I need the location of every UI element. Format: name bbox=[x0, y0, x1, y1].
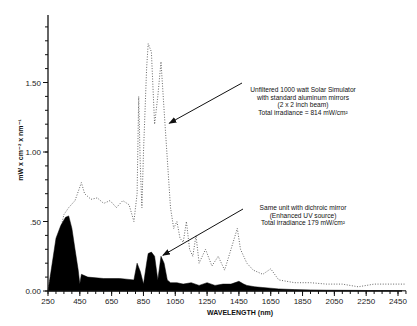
x-tick-label: 2450 bbox=[389, 297, 407, 306]
y-tick-label: 0.00 bbox=[25, 287, 41, 296]
x-tick-label: 650 bbox=[105, 297, 119, 306]
annotation-text: Same unit with dichroic mirror bbox=[260, 204, 348, 211]
y-tick-label: .50 bbox=[30, 218, 42, 227]
annotation-arrow-icon bbox=[169, 83, 242, 123]
annotation-text: Total irradiance = 814 mW/cm² bbox=[258, 109, 348, 116]
x-tick-label: 2250 bbox=[357, 297, 375, 306]
y-tick-label: 1.00 bbox=[25, 148, 41, 157]
y-tick-label: 1.50 bbox=[25, 79, 41, 88]
x-tick-label: 850 bbox=[137, 297, 151, 306]
annotation-text: Total irradiance 179 mW/cm² bbox=[261, 219, 346, 226]
annotation-2: Same unit with dichroic mirror(Enhanced … bbox=[163, 204, 347, 255]
annotation-1: Unfiltered 1000 watt Solar Simulatorwith… bbox=[169, 83, 356, 123]
x-tick-label: 1650 bbox=[262, 297, 280, 306]
x-tick-label: 450 bbox=[73, 297, 87, 306]
annotations: Unfiltered 1000 watt Solar Simulatorwith… bbox=[163, 83, 357, 255]
x-tick-label: 1250 bbox=[198, 297, 216, 306]
annotation-text: Unfiltered 1000 watt Solar Simulator bbox=[250, 86, 356, 93]
x-tick-label: 1050 bbox=[166, 297, 184, 306]
x-tick-label: 1850 bbox=[294, 297, 312, 306]
annotation-text: with standard aluminum mirrors bbox=[256, 94, 350, 101]
unfiltered-series-line bbox=[48, 44, 406, 291]
spectral-irradiance-chart: 0.00.501.001.502504506508501050125014501… bbox=[0, 0, 417, 326]
x-tick-label: 2050 bbox=[325, 297, 343, 306]
dichroic-series-area bbox=[48, 216, 406, 291]
x-axis-title: WAVELENGTH (nm) bbox=[207, 309, 273, 317]
x-tick-label: 1450 bbox=[230, 297, 248, 306]
x-tick-label: 250 bbox=[41, 297, 55, 306]
y-axis-title: mW x cm⁻² x nm⁻¹ bbox=[17, 118, 24, 180]
axes: 0.00.501.001.502504506508501050125014501… bbox=[25, 15, 407, 306]
